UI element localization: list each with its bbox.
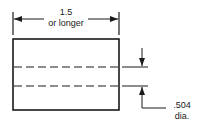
- diameter-dimension: .504 dia.: [122, 48, 191, 121]
- length-dimension: 1.5 or longer: [13, 7, 119, 35]
- diameter-value: .504: [173, 100, 191, 110]
- length-qualifier: or longer: [48, 18, 84, 28]
- cylinder-drawing: 1.5 or longer .504 dia.: [0, 0, 201, 129]
- length-value: 1.5: [60, 7, 73, 17]
- cylinder-outline: [13, 39, 119, 110]
- diameter-unit: dia.: [175, 111, 190, 121]
